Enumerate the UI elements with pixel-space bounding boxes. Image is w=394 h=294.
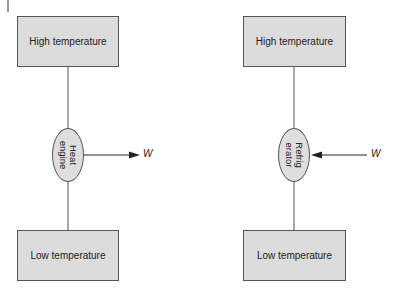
left-high-temperature-label: High temperature xyxy=(29,36,106,47)
left-arrowhead-icon xyxy=(129,152,140,159)
right-low-temperature-label: Low temperature xyxy=(257,250,332,261)
right-work-label: W xyxy=(371,148,380,159)
left-low-temperature-label: Low temperature xyxy=(30,250,105,261)
heat-engine-label: Heat engine xyxy=(58,141,78,170)
left-high-temperature-box: High temperature xyxy=(17,16,119,67)
right-high-temperature-label: High temperature xyxy=(256,36,333,47)
refrigerator-label: Refrig erator xyxy=(284,142,304,167)
left-work-label: W xyxy=(143,148,152,159)
right-arrowhead-icon xyxy=(311,152,322,159)
left-low-temperature-box: Low temperature xyxy=(17,230,119,281)
refrigerator-ellipse: Refrig erator xyxy=(278,128,310,182)
heat-engine-ellipse: Heat engine xyxy=(52,128,84,182)
right-low-temperature-box: Low temperature xyxy=(243,230,346,281)
right-high-temperature-box: High temperature xyxy=(243,16,346,67)
